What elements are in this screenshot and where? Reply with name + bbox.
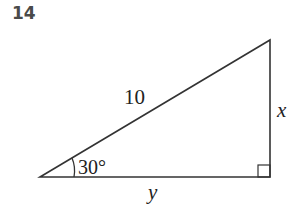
right-triangle-diagram: 10 30° x y xyxy=(0,0,303,210)
opposite-side-label: x xyxy=(276,98,287,122)
hypotenuse-label: 10 xyxy=(124,85,145,109)
triangle-shape xyxy=(40,40,270,177)
adjacent-side-label: y xyxy=(146,180,158,204)
right-angle-marker xyxy=(258,165,270,177)
angle-label: 30° xyxy=(78,156,106,178)
angle-arc xyxy=(72,158,75,177)
